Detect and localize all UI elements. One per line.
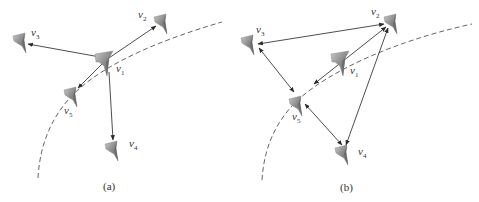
node-v4: v4: [105, 137, 138, 161]
trajectory-arc-a: [38, 22, 222, 178]
edge-v2-v4: [346, 28, 388, 145]
node-label-v3: v3: [256, 23, 265, 38]
drone-icon: [335, 145, 348, 165]
node-label-v5: v5: [64, 104, 73, 119]
edge-v3-v5: [259, 48, 294, 92]
node-v5: v5: [289, 96, 302, 125]
edge-v1-v5: [78, 62, 104, 88]
node-label-v4: v4: [129, 137, 138, 152]
edge-v1-v3: [28, 44, 100, 57]
drone-icon: [105, 141, 118, 161]
edge-v5-v4: [305, 104, 342, 145]
panel-a: v1 v2 v3 v5 v4 (a): [13, 8, 222, 193]
edge-v2-v3: [258, 24, 384, 44]
panel-caption-a: (a): [103, 180, 116, 193]
node-label-v5: v5: [292, 110, 301, 125]
drone-icon: [241, 35, 254, 55]
drone-icon: [13, 33, 26, 53]
node-label-v3: v3: [31, 26, 40, 41]
node-label-v1: v1: [116, 62, 125, 77]
node-v2: v2: [138, 8, 167, 34]
edge-v1-v4: [109, 72, 113, 140]
node-v3: v3: [13, 26, 40, 53]
drone-icon: [95, 51, 113, 76]
figure-canvas: v1 v2 v3 v5 v4 (a) v1: [0, 0, 479, 202]
node-label-v1: v1: [350, 64, 359, 79]
node-label-v4: v4: [358, 145, 367, 160]
node-v4: v4: [335, 145, 367, 165]
edge-v1-v2: [106, 26, 156, 60]
drone-icon: [331, 51, 349, 76]
node-v2: v2: [371, 5, 397, 34]
node-label-v2: v2: [371, 5, 380, 20]
node-v1: v1: [331, 51, 359, 79]
node-v1: v1: [95, 51, 125, 77]
drone-icon: [384, 14, 397, 34]
panel-b: v1 v2 v3 v5 v4 (b): [241, 5, 472, 194]
panel-caption-b: (b): [340, 181, 353, 194]
drone-icon: [154, 14, 167, 34]
node-label-v2: v2: [138, 8, 147, 23]
